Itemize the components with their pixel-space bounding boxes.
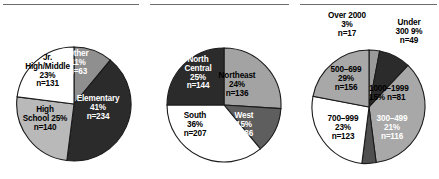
- pie-label-under-300-percent: 300 9%: [385, 28, 433, 37]
- pie-svg-region: [165, 46, 283, 164]
- pie-slice-500-699[interactable]: [313, 50, 369, 107]
- pie-label-under-300-name: Under: [385, 19, 433, 28]
- panel-top-rule: [150, 4, 289, 5]
- panel-top-rule: [300, 4, 437, 5]
- pie-chart-school-level: [15, 45, 133, 163]
- pie-slice-jr-high-middle[interactable]: [17, 47, 74, 104]
- pie-label-over-2000-name: Over 2000: [313, 12, 381, 21]
- panel-top-rule: [3, 4, 139, 5]
- pie-panel-region: Northeast 24% n=136 West 15% n=86 South …: [146, 0, 293, 179]
- pie-slice-northeast[interactable]: [224, 48, 281, 109]
- pie-label-under-300-count: n=49: [385, 37, 433, 46]
- pie-svg-enrollment-size: [310, 48, 428, 166]
- pie-slice-high-school[interactable]: [17, 97, 74, 161]
- pie-slice-700-999[interactable]: [312, 96, 369, 163]
- pie-label-over-2000-count: n=17: [313, 30, 381, 39]
- pie-panel-enrollment-size: Over 2000 3% n=17 Under 300 9% n=49 1000…: [293, 0, 439, 179]
- pie-label-under-300: Under 300 9% n=49: [385, 19, 433, 45]
- pie-panel-school-level: Other 11% n=63 Elementary 41% n=234 High…: [0, 0, 146, 179]
- pie-label-over-2000: Over 2000 3% n=17: [313, 12, 381, 38]
- pie-svg-school-level: [15, 45, 133, 163]
- pie-label-over-2000-percent: 3%: [313, 21, 381, 30]
- pie-slice-north-central[interactable]: [167, 48, 224, 105]
- pie-chart-region: [165, 46, 283, 164]
- pie-chart-enrollment-size: [310, 48, 428, 166]
